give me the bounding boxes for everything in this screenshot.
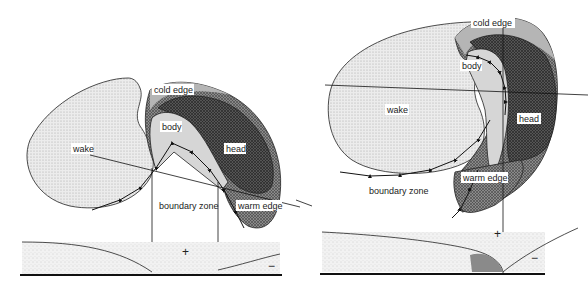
svg-text:body: body: [162, 122, 182, 132]
left-label-head: head: [224, 143, 246, 154]
right-ground-section: [322, 232, 545, 272]
right-label-body: body: [460, 60, 482, 71]
left-label-cold-edge: cold edge: [152, 84, 194, 95]
svg-text:cold edge: cold edge: [154, 85, 193, 95]
left-label-body: body: [160, 121, 182, 132]
left-label-wake: wake: [71, 143, 94, 154]
comma-cloud-diagram: cold edge body head wake boundary zone w…: [0, 0, 588, 286]
svg-text:boundary zone: boundary zone: [159, 201, 219, 211]
svg-text:warm edge: warm edge: [237, 201, 283, 211]
right-minus-sign: −: [531, 251, 538, 265]
left-minus-sign: −: [268, 259, 275, 273]
svg-text:warm edge: warm edge: [462, 173, 508, 183]
right-label-wake: wake: [385, 104, 409, 115]
right-label-cold-edge: cold edge: [471, 17, 515, 28]
left-plus-sign: +: [182, 245, 189, 259]
svg-text:wake: wake: [386, 105, 408, 115]
left-label-warm-edge: warm edge: [236, 200, 283, 211]
svg-text:body: body: [462, 61, 482, 71]
right-label-head: head: [517, 113, 541, 124]
svg-text:boundary zone: boundary zone: [369, 186, 429, 196]
right-panel: cold edge body head wake boundary zone w…: [296, 17, 588, 275]
svg-text:wake: wake: [72, 144, 94, 154]
right-label-warm-edge: warm edge: [461, 172, 508, 183]
left-panel: cold edge body head wake boundary zone w…: [20, 78, 300, 275]
svg-text:head: head: [519, 114, 539, 124]
right-label-boundary-zone: boundary zone: [369, 186, 429, 196]
svg-text:cold edge: cold edge: [473, 18, 512, 28]
left-wake-region: [27, 78, 153, 208]
svg-text:head: head: [226, 144, 246, 154]
right-plus-sign: +: [494, 227, 501, 241]
left-label-boundary-zone: boundary zone: [159, 201, 219, 211]
left-ground-section: [22, 242, 280, 274]
